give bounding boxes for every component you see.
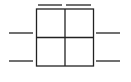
grid-diagram [0, 0, 131, 82]
